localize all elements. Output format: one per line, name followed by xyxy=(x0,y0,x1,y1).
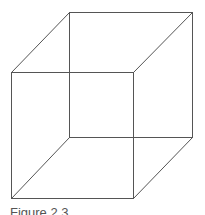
figure-caption: Figure 2.3 xyxy=(10,205,69,215)
cube-wireframe xyxy=(0,0,205,215)
necker-cube-figure: Figure 2.3 xyxy=(0,0,205,215)
edge-top-right xyxy=(134,13,193,73)
edge-bottom-left xyxy=(12,138,70,199)
edge-top-left xyxy=(12,13,70,73)
edge-bottom-right xyxy=(134,138,193,199)
